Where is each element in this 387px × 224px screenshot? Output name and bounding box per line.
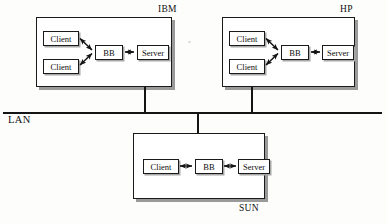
node-label: Client xyxy=(51,62,72,72)
node-hp-client-2[interactable]: Client xyxy=(229,59,265,74)
machine-box-ibm[interactable]: Client Client BB Server xyxy=(36,17,172,87)
node-label: Client xyxy=(151,162,172,172)
node-sun-bb[interactable]: BB xyxy=(195,159,223,174)
drop-line-sun xyxy=(197,113,199,134)
drop-line-ibm xyxy=(144,87,146,112)
node-label: Server xyxy=(142,48,164,58)
node-ibm-client-2[interactable]: Client xyxy=(43,59,79,74)
paper-speck xyxy=(188,41,191,43)
node-label: Server xyxy=(327,48,349,58)
node-ibm-bb[interactable]: BB xyxy=(95,45,123,60)
node-label: Client xyxy=(237,62,258,72)
node-hp-bb[interactable]: BB xyxy=(281,45,309,60)
node-label: BB xyxy=(289,48,300,58)
diagram-canvas: IBM Client Client BB Server HP Client Cl… xyxy=(0,0,387,224)
node-label: Client xyxy=(237,34,258,44)
node-label: BB xyxy=(103,48,114,58)
machine-caption-ibm: IBM xyxy=(158,4,177,14)
node-ibm-client-1[interactable]: Client xyxy=(43,31,79,46)
node-label: Client xyxy=(51,34,72,44)
node-label: Server xyxy=(243,162,265,172)
machine-box-sun[interactable]: Client BB Server xyxy=(133,133,265,199)
node-sun-client[interactable]: Client xyxy=(143,159,179,174)
machine-caption-sun: SUN xyxy=(239,203,259,213)
lan-bus-line[interactable] xyxy=(3,112,382,114)
node-hp-server[interactable]: Server xyxy=(322,45,354,60)
machine-caption-hp: HP xyxy=(340,4,353,14)
node-hp-client-1[interactable]: Client xyxy=(229,31,265,46)
node-sun-server[interactable]: Server xyxy=(238,159,270,174)
machine-box-hp[interactable]: Client Client BB Server xyxy=(222,17,355,87)
node-ibm-server[interactable]: Server xyxy=(137,45,169,60)
lan-label: LAN xyxy=(8,114,31,125)
drop-line-hp xyxy=(251,87,253,112)
node-label: BB xyxy=(203,162,214,172)
